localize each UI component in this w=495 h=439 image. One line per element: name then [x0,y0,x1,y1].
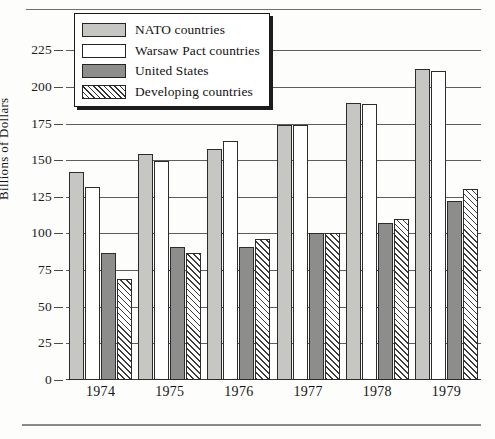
bar-1977-nato [277,125,292,380]
bar-group-1979 [412,40,481,380]
y-tick-150 [54,160,63,161]
bar-1975-warsaw [154,161,169,380]
y-tick-25 [54,343,63,344]
bar-1975-nato [138,154,153,380]
y-tick-label-100: 100 [31,225,52,241]
legend-label: Warsaw Pact countries [135,43,260,59]
bar-1978-us [378,223,393,380]
bar-1974-us [101,253,116,381]
bar-1977-warsaw [293,125,308,380]
bottom-rule [22,424,481,426]
bar-1974-warsaw [85,187,100,380]
y-tick-label-75: 75 [38,262,52,278]
legend-label: Developing countries [135,84,253,100]
y-tick-225 [54,50,63,51]
y-tick-label-225: 225 [31,42,52,58]
y-tick-label-150: 150 [31,152,52,168]
y-tick-label-50: 50 [38,299,52,315]
legend-item-warsaw: Warsaw Pact countries [82,41,262,62]
y-tick-200 [54,87,63,88]
y-tick-0 [54,380,63,381]
legend-swatch-us-icon [82,64,126,78]
bar-1978-nato [346,103,361,380]
bar-1977-dev [325,233,340,380]
y-tick-label-175: 175 [31,116,52,132]
bar-group-1977 [274,40,343,380]
legend-item-us: United States [82,61,262,82]
x-tick-label-1978: 1978 [363,384,392,400]
bar-1979-us [447,201,462,380]
bar-1979-warsaw [431,71,446,380]
bar-1975-dev [186,253,201,381]
x-tick-label-1974: 1974 [86,384,115,400]
y-tick-label-200: 200 [31,79,52,95]
legend-swatch-nato-icon [82,23,126,37]
legend-item-nato: NATO countries [82,20,262,41]
y-tick-label-25: 25 [38,335,52,351]
bar-1976-warsaw [223,141,238,380]
y-tick-50 [54,307,63,308]
x-tick-label-1975: 1975 [155,384,184,400]
y-tick-100 [54,233,63,234]
top-rule [26,9,481,10]
bar-1976-dev [255,239,270,380]
y-tick-label-125: 125 [31,189,52,205]
chart-legend: NATO countriesWarsaw Pact countriesUnite… [74,13,270,107]
y-axis-title: Billions of Dollars [0,98,12,200]
bar-1974-nato [69,172,84,380]
bar-1978-warsaw [362,104,377,380]
bar-1977-us [309,233,324,380]
bar-1979-nato [415,69,430,380]
y-tick-label-0: 0 [45,372,52,388]
legend-swatch-warsaw-icon [82,44,126,58]
legend-label: United States [135,63,209,79]
figure-world-military-expenditures: 0255075100125150175200225 Billions of Do… [0,0,495,439]
y-tick-75 [54,270,63,271]
bar-1976-nato [207,149,222,380]
x-tick-label-1976: 1976 [224,384,253,400]
bar-1974-dev [117,279,132,380]
bar-1978-dev [394,219,409,380]
x-tick-label-1979: 1979 [432,384,461,400]
bar-1976-us [239,247,254,380]
y-tick-175 [54,124,63,125]
x-axis-tick-labels: 197419751976197719781979 [66,384,481,408]
y-axis-tick-labels: 0255075100125150175200225 [0,40,52,380]
bar-1979-dev [463,189,478,380]
x-tick-label-1977: 1977 [293,384,322,400]
bar-1975-us [170,247,185,380]
bar-group-1978 [343,40,412,380]
legend-label: NATO countries [135,22,225,38]
y-tick-125 [54,197,63,198]
legend-swatch-dev-icon [82,85,126,99]
legend-item-dev: Developing countries [82,82,262,103]
